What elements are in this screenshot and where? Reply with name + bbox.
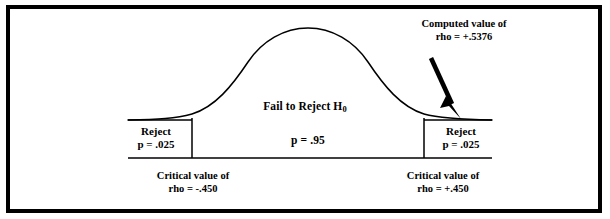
reject-left-title: Reject <box>120 125 192 138</box>
reject-right-probability: p = .025 <box>424 138 498 151</box>
critical-value-left-caption: Critical value of rho = -.450 <box>118 170 268 196</box>
reject-region-left-label: Reject p = .025 <box>120 125 192 152</box>
computed-line2: rho = +.5376 <box>378 31 550 44</box>
computed-line1: Computed value of <box>378 18 550 31</box>
reject-left-probability: p = .025 <box>120 138 192 151</box>
computed-value-arrow <box>431 58 461 119</box>
statistics-figure: Fail to Reject H0 p = .95 Reject p = .02… <box>0 0 610 219</box>
reject-right-title: Reject <box>424 125 498 138</box>
reject-region-right-label: Reject p = .025 <box>424 125 498 152</box>
critical-left-line2: rho = -.450 <box>118 183 268 196</box>
fail-to-reject-label: Fail to Reject H0 <box>205 100 405 114</box>
null-hypothesis-subscript: 0 <box>342 104 346 114</box>
computed-value-caption: Computed value of rho = +.5376 <box>378 18 550 44</box>
critical-left-line1: Critical value of <box>118 170 268 183</box>
critical-right-line1: Critical value of <box>368 170 518 183</box>
critical-right-line2: rho = +.450 <box>368 183 518 196</box>
critical-value-right-caption: Critical value of rho = +.450 <box>368 170 518 196</box>
center-probability-label: p = .95 <box>253 134 363 148</box>
